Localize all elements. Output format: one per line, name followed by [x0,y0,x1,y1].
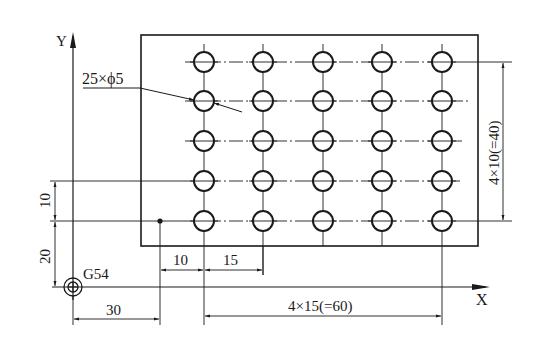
hole-callout-leader [83,88,242,112]
dim-4x10-vertical: 4×10(=40) [486,121,503,185]
dim-4x15-horizontal: 4×15(=60) [288,298,352,315]
dim-15-horizontal: 15 [223,252,238,268]
x-axis-label: X [476,291,488,308]
dim-10-horizontal: 10 [173,252,188,268]
dim-30-horizontal: 30 [106,302,121,318]
y-axis-label: Y [56,33,67,49]
plate-outline [141,35,478,246]
y-axis-arrow-icon [70,32,76,48]
dim-20-vertical: 20 [37,249,53,264]
hole-pattern-drawing: Y X G54 [0,0,534,353]
y-axis [70,32,76,300]
g54-label: G54 [83,266,109,282]
x-axis [52,284,490,290]
dim-10-vertical: 10 [37,193,53,208]
x-axis-arrow-icon [472,284,490,290]
hole-callout-label: 25×ϕ5 [82,70,123,88]
